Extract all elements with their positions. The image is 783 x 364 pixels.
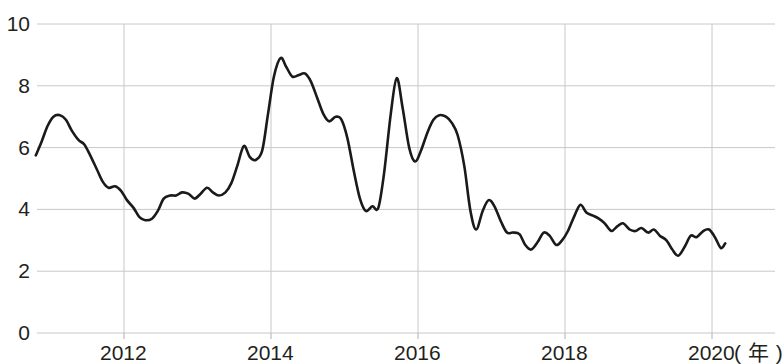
y-axis-label-8: 8 [18,75,30,96]
x-axis-label-2018: 2018 [541,342,588,363]
x-axis-label-2016: 2016 [394,342,441,363]
y-axis-label-6: 6 [18,137,30,158]
x-axis-unit-label: ( 年 ) [734,342,783,363]
horizontal-gridlines [37,24,775,333]
x-axis-label-2020: 2020 [688,342,735,363]
x-axis-label-2014: 2014 [247,342,294,363]
y-axis-label-10: 10 [7,13,30,34]
y-axis-label-0: 0 [18,322,30,343]
y-axis-label-2: 2 [18,260,30,281]
vertical-gridlines [124,24,712,333]
data-line-series-1 [36,58,725,256]
axis-tick-marks [124,333,712,339]
y-axis-label-4: 4 [18,198,30,219]
x-axis-label-2012: 2012 [100,342,147,363]
